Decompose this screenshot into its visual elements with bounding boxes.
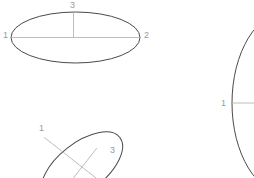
figure-layer <box>0 0 254 178</box>
figure-clipped-large-ellipse <box>232 11 254 178</box>
axis-label-right-1: 1 <box>221 99 226 108</box>
axis-label-bottom-left-1: 1 <box>39 124 44 133</box>
ellipse-outline-right <box>232 11 254 178</box>
axis-label-bottom-left-3: 3 <box>110 146 115 155</box>
axis-label-top-left-2: 2 <box>144 31 149 40</box>
ellipse-outline-bottom-left <box>29 119 134 178</box>
figure-horizontal-ellipse <box>11 12 140 63</box>
minor-axis-line-bottom-left <box>67 148 97 178</box>
axis-label-top-left-1: 1 <box>3 31 8 40</box>
axis-label-top-left-3: 3 <box>70 1 75 10</box>
drawing-canvas: 1 2 3 1 3 1 <box>0 0 254 178</box>
major-axis-line-bottom-left <box>44 137 120 178</box>
figure-tilted-ellipse <box>29 119 134 178</box>
